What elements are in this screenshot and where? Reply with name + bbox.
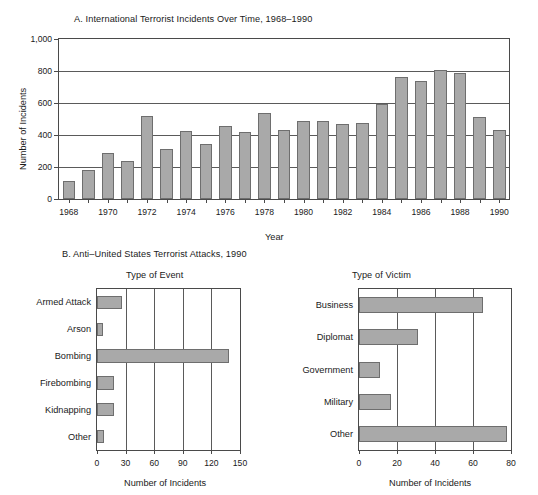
panel-b-event-x-tick-mark (154, 451, 155, 454)
panel-b-event-x-tick-mark (126, 451, 127, 454)
panel-a-bar (160, 149, 173, 199)
panel-a-x-tick-mark (480, 200, 481, 203)
panel-b-victim-category-label: Business (287, 300, 353, 310)
panel-b-event-category-label: Firebombing (3, 378, 91, 388)
panel-a-x-tick-mark (401, 200, 402, 203)
panel-b-event-bar (97, 323, 103, 336)
panel-b-victim-x-axis-label: Number of Incidents (389, 478, 471, 488)
panel-a-x-tick-mark (127, 200, 128, 203)
panel-a-bar (141, 116, 154, 199)
panel-a-y-tick-label: 0 (0, 194, 52, 204)
panel-a-bar (82, 170, 95, 199)
panel-b-victim-subtitle: Type of Victim (352, 270, 411, 280)
panel-b-event-category-label: Bombing (3, 351, 91, 361)
panel-b-event-x-tick-mark (211, 451, 212, 454)
panel-a-x-tick-label: 1988 (442, 207, 478, 217)
panel-b-victim-x-tick-mark (511, 451, 512, 454)
panel-a-x-tick-label: 1974 (168, 207, 204, 217)
panel-a-y-tick-mark (54, 199, 58, 200)
panel-a-x-tick-label: 1982 (325, 207, 361, 217)
panel-a-y-tick-mark (54, 71, 58, 72)
panel-b-event-x-axis-label: Number of Incidents (124, 478, 206, 488)
panel-b-event-x-tick-mark (97, 451, 98, 454)
panel-b-event-x-tick-label: 30 (110, 458, 142, 468)
panel-b-victim-x-tick-mark (397, 451, 398, 454)
panel-a-bar (121, 161, 134, 199)
panel-a-y-tick-label: 600 (0, 98, 52, 108)
panel-b-event-category-label: Arson (3, 324, 91, 334)
panel-b-event-plot-area (96, 288, 241, 451)
panel-b-victim-bar (359, 394, 391, 410)
panel-a-bar (278, 130, 291, 199)
panel-a-x-tick-mark (304, 200, 305, 203)
panel-b-victim-bar (359, 426, 507, 442)
panel-a-bar (395, 77, 408, 199)
panel-b-victim-x-tick-label: 80 (495, 458, 527, 468)
panel-a-plot-area (58, 38, 510, 200)
panel-a-bar (317, 121, 330, 199)
panel-a-bar (200, 144, 213, 199)
panel-a-x-tick-label: 1986 (403, 207, 439, 217)
panel-a-x-tick-label: 1972 (129, 207, 165, 217)
panel-a-y-tick-mark (54, 39, 58, 40)
panel-a-bar (493, 130, 506, 199)
panel-b-victim-x-tick-label: 0 (343, 458, 375, 468)
panel-a-bar (102, 153, 115, 199)
panel-a-bar (297, 121, 310, 199)
panel-b-victim-category-label: Diplomat (287, 332, 353, 342)
panel-a-x-tick-mark (284, 200, 285, 203)
panel-a-y-tick-label: 200 (0, 162, 52, 172)
panel-b-event-x-tick-label: 120 (195, 458, 227, 468)
panel-b-victim-x-tick-mark (435, 451, 436, 454)
panel-b-event-bar (97, 430, 104, 443)
panel-a-x-tick-mark (186, 200, 187, 203)
panel-b-victim-bar (359, 329, 418, 345)
panel-a-x-tick-mark (206, 200, 207, 203)
panel-b-victim-x-tick-label: 60 (457, 458, 489, 468)
panel-b-event-bar (97, 376, 114, 389)
panel-a-bar (258, 113, 271, 199)
panel-a-y-tick-mark (54, 135, 58, 136)
panel-a-bar (63, 181, 76, 199)
panel-a-bar (239, 132, 252, 199)
panel-b-victim-plot-area (358, 288, 512, 451)
panel-a-bar (336, 124, 349, 199)
panel-a-bar (415, 81, 428, 199)
panel-b-event-bar (97, 296, 122, 309)
panel-b-event-gridline (211, 289, 212, 450)
panel-a-y-tick-label: 400 (0, 130, 52, 140)
terrorism-statistics-figure: A. International Terrorist Incidents Ove… (0, 0, 538, 495)
panel-b-event-x-tick-label: 90 (167, 458, 199, 468)
panel-b-victim-category-label: Other (287, 429, 353, 439)
panel-a-x-axis-label: Year (265, 232, 284, 242)
panel-a-title: A. International Terrorist Incidents Ove… (74, 14, 312, 24)
panel-a-x-tick-mark (147, 200, 148, 203)
panel-b-event-gridline (126, 289, 127, 450)
panel-a-x-tick-label: 1990 (481, 207, 517, 217)
panel-b-victim-category-label: Military (287, 397, 353, 407)
panel-b-event-bar (97, 403, 114, 416)
panel-a-x-tick-mark (499, 200, 500, 203)
panel-a-x-tick-mark (362, 200, 363, 203)
panel-a-x-tick-mark (108, 200, 109, 203)
panel-a-x-tick-label: 1978 (246, 207, 282, 217)
panel-b-event-x-tick-label: 150 (224, 458, 256, 468)
panel-a-x-tick-mark (421, 200, 422, 203)
panel-b-victim-x-tick-mark (359, 451, 360, 454)
panel-b-victim-x-tick-label: 20 (381, 458, 413, 468)
panel-b-event-x-tick-mark (183, 451, 184, 454)
panel-b-victim-category-label: Government (287, 365, 353, 375)
panel-a-x-tick-mark (167, 200, 168, 203)
panel-a-x-tick-label: 1984 (364, 207, 400, 217)
panel-a-x-tick-label: 1968 (51, 207, 87, 217)
panel-a-x-tick-mark (69, 200, 70, 203)
panel-a-bar (434, 70, 447, 199)
panel-a-bar (473, 117, 486, 199)
panel-a-x-tick-label: 1980 (286, 207, 322, 217)
panel-b-event-bar (97, 349, 229, 362)
panel-a-y-tick-mark (54, 103, 58, 104)
panel-a-x-tick-mark (245, 200, 246, 203)
panel-b-event-category-label: Kidnapping (3, 405, 91, 415)
panel-b-event-category-label: Other (3, 432, 91, 442)
panel-a-x-tick-mark (88, 200, 89, 203)
